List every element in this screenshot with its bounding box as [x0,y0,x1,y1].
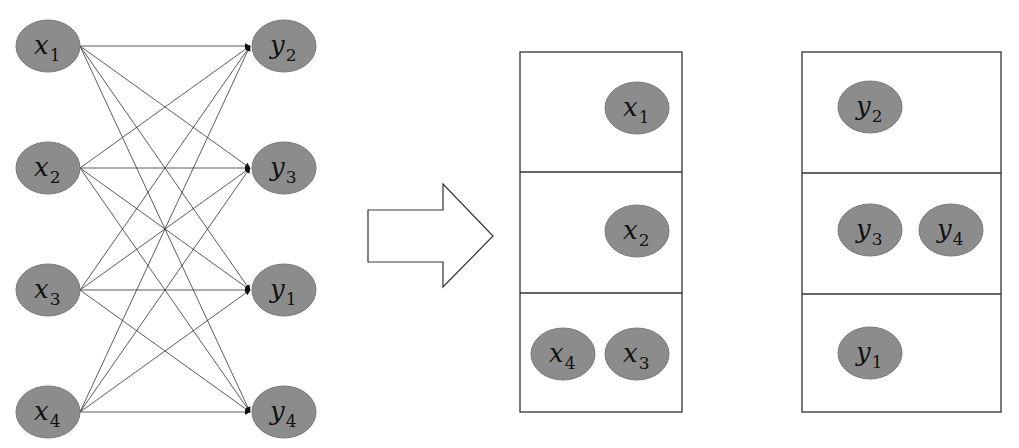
diagram-canvas: x1x2x3x4 y2y3y1y4 x1x2x4x3 y2y3y4y1 [0,0,1019,448]
partition-node-y1: y1 [838,327,902,379]
node-y1: y1 [252,264,316,316]
partition-node-y3: y3 [838,204,902,256]
node-x2: x2 [16,142,80,194]
partition-node-y4: y4 [919,204,983,256]
partition-node-x4: x4 [531,328,595,380]
node-x3: x3 [16,264,80,316]
node-x4: x4 [16,386,80,438]
node-y3: y3 [252,142,316,194]
partition-node-x2: x2 [605,205,669,257]
partition-y-nodes: y2y3y4y1 [838,81,983,379]
node-y4: y4 [252,386,316,438]
source-nodes: x1x2x3x4 [16,20,80,438]
partition-node-x3: x3 [605,328,669,380]
node-y2: y2 [252,20,316,72]
node-x1: x1 [16,20,80,72]
partition-node-x1: x1 [605,82,669,134]
right-arrow-icon [368,184,493,287]
target-nodes: y2y3y1y4 [252,20,316,438]
partition-x-nodes: x1x2x4x3 [531,82,669,380]
partition-node-y2: y2 [838,81,902,133]
bipartite-edges [80,46,250,412]
